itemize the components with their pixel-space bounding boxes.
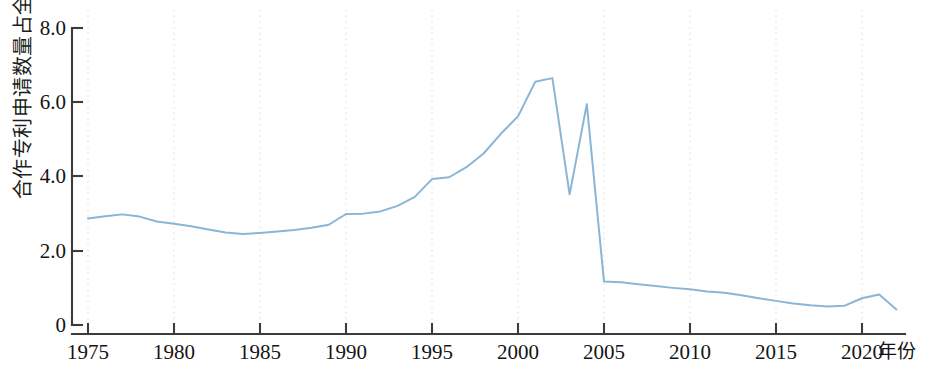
x-tick-1990: 1990 — [301, 341, 391, 363]
x-tick-1975: 1975 — [43, 341, 133, 363]
x-tick-2000: 2000 — [473, 341, 563, 363]
x-axis — [72, 324, 905, 334]
chart-figure: 8.0 6.0 4.0 2.0 0 合作专利申请数量占全球比重（%） 1975 … — [0, 0, 929, 371]
line-chart-plot — [0, 0, 929, 371]
x-tick-2005: 2005 — [559, 341, 649, 363]
x-tick-2010: 2010 — [645, 341, 735, 363]
data-series-line — [88, 78, 896, 309]
x-tick-2015: 2015 — [731, 341, 821, 363]
gridlines — [88, 10, 862, 323]
x-tick-1995: 1995 — [387, 341, 477, 363]
y-axis — [72, 28, 82, 325]
x-tick-1980: 1980 — [129, 341, 219, 363]
x-axis-title: 年份 — [878, 341, 916, 363]
x-tick-1985: 1985 — [215, 341, 305, 363]
